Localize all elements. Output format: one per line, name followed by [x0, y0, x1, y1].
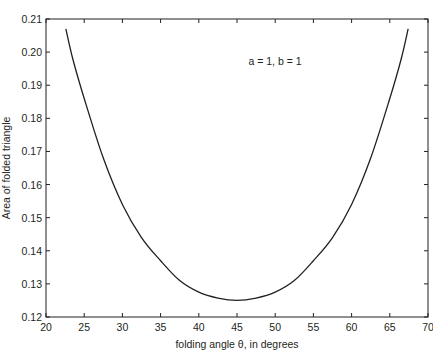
y-tick-label: 0.19: [22, 79, 43, 91]
y-tick-label: 0.14: [22, 245, 43, 257]
plot-border: [46, 19, 428, 317]
y-axis-label: Area of folded triangle: [0, 116, 12, 219]
x-tick-label: 60: [346, 321, 358, 333]
x-axis: 2025303540455055606570: [40, 19, 433, 333]
x-tick-label: 40: [193, 321, 205, 333]
x-tick-label: 65: [384, 321, 396, 333]
x-tick-label: 25: [78, 321, 90, 333]
x-tick-label: 35: [155, 321, 167, 333]
parameter-annotation: a = 1, b = 1: [248, 55, 301, 67]
y-tick-label: 0.17: [22, 145, 43, 157]
y-tick-label: 0.20: [22, 46, 43, 58]
y-tick-label: 0.15: [22, 212, 43, 224]
x-tick-label: 50: [269, 321, 281, 333]
x-tick-label: 30: [117, 321, 129, 333]
x-tick-label: 45: [231, 321, 243, 333]
chart: 2025303540455055606570 0.120.130.140.150…: [0, 0, 433, 355]
y-tick-label: 0.16: [22, 179, 43, 191]
y-tick-label: 0.21: [22, 13, 43, 25]
y-tick-label: 0.13: [22, 278, 43, 290]
area-curve: [66, 29, 408, 301]
y-tick-label: 0.18: [22, 112, 43, 124]
plot-frame: [46, 19, 428, 317]
y-tick-label: 0.12: [22, 311, 43, 323]
x-axis-label: folding angle θ, in degrees: [175, 338, 298, 350]
x-tick-label: 70: [422, 321, 433, 333]
x-tick-label: 55: [308, 321, 320, 333]
